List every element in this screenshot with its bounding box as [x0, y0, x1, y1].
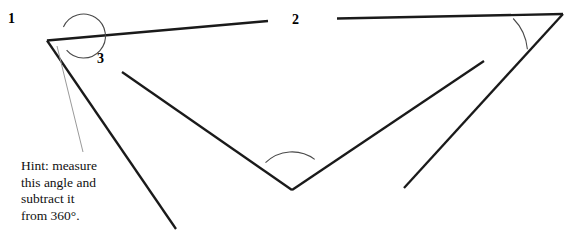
arc-right-vertex — [513, 19, 527, 50]
segment-mid-descender — [122, 72, 292, 190]
segment-top-edge-left — [47, 21, 268, 41]
hint-note-text: Hint: measure this angle and subtract it… — [21, 158, 131, 224]
hint-leader-line — [57, 46, 83, 152]
segment-mid-ascender — [292, 61, 484, 190]
angle-label-3: 3 — [97, 52, 104, 66]
angle-label-1: 1 — [8, 12, 15, 26]
angle-label-2: 2 — [292, 13, 299, 27]
arc-bottom-vertex — [266, 152, 315, 163]
geometry-figure: 1 2 3 Hint: measure this angle and subtr… — [0, 0, 577, 240]
segment-top-edge-right — [337, 14, 563, 19]
segment-right-ascender — [404, 14, 563, 188]
